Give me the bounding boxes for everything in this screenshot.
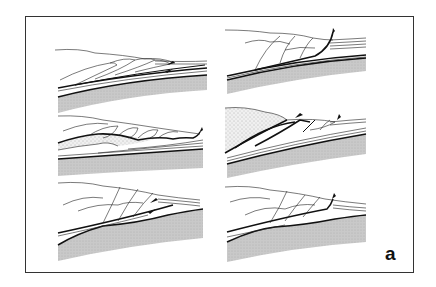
panel-left-1 [55,45,215,115]
basement-layer [227,58,366,94]
thrust-arrow-icon [199,127,203,133]
thrust-arrow-icon [295,113,303,118]
panel-right-1 [225,28,385,98]
panel-left-3 [58,183,218,263]
thrust-arrow-icon [337,114,341,120]
thrust-arrow-icon [332,193,336,199]
shear-arrows-icon [148,198,158,214]
panel-right-3 [225,187,385,267]
figure-label: a [385,244,396,263]
basement-layer [58,149,203,176]
basement-layer [227,215,366,262]
panel-right-2 [225,108,385,180]
panel-left-2 [58,116,218,178]
basement-layer [58,75,207,113]
